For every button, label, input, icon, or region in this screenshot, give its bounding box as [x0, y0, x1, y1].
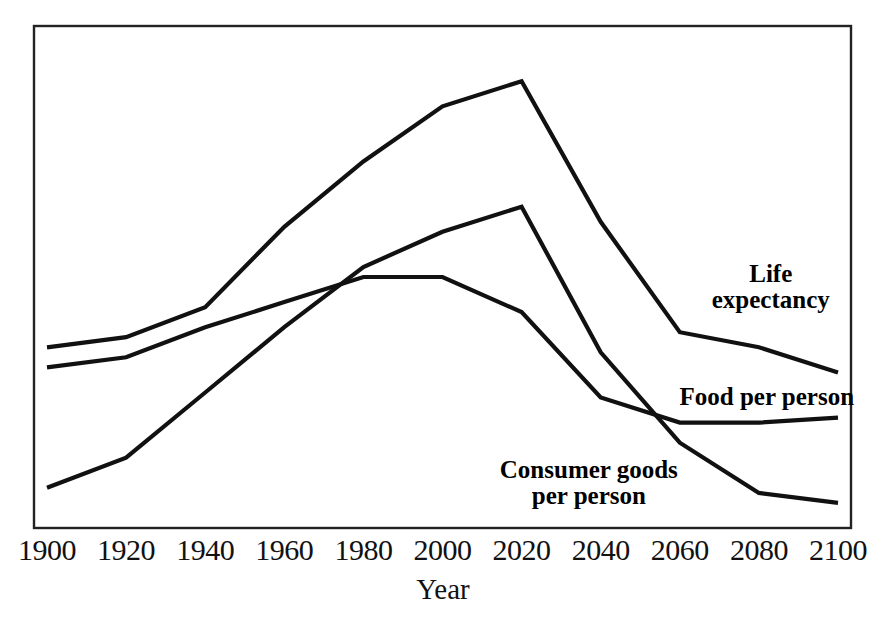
series-line-life-expectancy [47, 81, 838, 372]
x-tick-label-2020: 2020 [493, 533, 551, 567]
x-tick-label-1940: 1940 [176, 533, 234, 567]
x-tick-label-1960: 1960 [255, 533, 313, 567]
series-label-consumer-goods-per-person: Consumer goods per person [500, 457, 678, 509]
series-line-consumer-goods-per-person [47, 207, 838, 503]
x-axis-title: Year [416, 573, 469, 606]
x-tick-label-2000: 2000 [414, 533, 472, 567]
x-tick-label-2080: 2080 [730, 533, 788, 567]
x-tick-label-2040: 2040 [572, 533, 630, 567]
x-tick-label-1900: 1900 [18, 533, 76, 567]
chart-page: 1900192019401960198020002020204020602080… [0, 0, 886, 625]
series-label-life-expectancy: Life expectancy [712, 261, 830, 313]
x-tick-label-1980: 1980 [334, 533, 392, 567]
x-tick-label-1920: 1920 [97, 533, 155, 567]
x-tick-label-2100: 2100 [809, 533, 867, 567]
series-label-food-per-person: Food per person [680, 384, 855, 410]
x-tick-label-2060: 2060 [651, 533, 709, 567]
